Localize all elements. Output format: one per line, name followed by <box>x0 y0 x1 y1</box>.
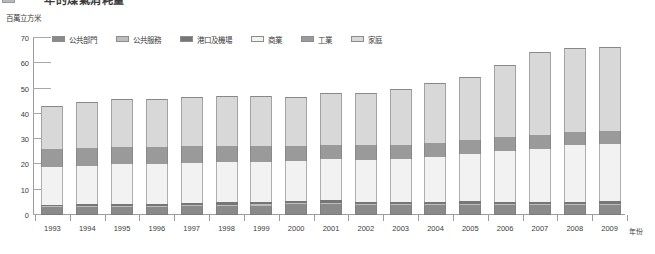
legend-item-3[interactable]: 港口及機場 <box>180 34 232 45</box>
legend-swatch-icon <box>52 36 65 42</box>
x-tick-label-2003: 2003 <box>384 224 418 233</box>
bar-segment <box>355 205 377 215</box>
bar-segment <box>564 205 586 215</box>
bar-segment <box>529 135 551 149</box>
bar-segment <box>459 154 481 201</box>
x-tick-label-1998: 1998 <box>210 224 244 233</box>
x-axis-tick-labels: 1993199419951996199719981999200020012002… <box>33 224 625 238</box>
chart-title-strip: 年的煤氣消耗量 <box>0 0 655 7</box>
bar-segment <box>146 206 168 207</box>
legend-swatch-icon <box>180 36 193 42</box>
bar-segment <box>76 102 98 148</box>
bar-segment <box>76 166 98 204</box>
x-tick-mark <box>348 215 349 221</box>
x-tick-mark <box>592 215 593 221</box>
bar-segment <box>111 207 133 215</box>
bar-segment <box>320 203 342 204</box>
bar-segment <box>41 106 63 149</box>
x-tick-label-1994: 1994 <box>70 224 104 233</box>
bar-segment <box>111 99 133 147</box>
bar-segment <box>181 205 203 206</box>
legend-label: 公共服務 <box>133 34 161 45</box>
bar-segment <box>146 204 168 206</box>
x-tick-mark <box>627 215 628 221</box>
bar-segment <box>216 146 238 162</box>
bar-segment <box>459 201 481 203</box>
legend-item-2[interactable]: 公共服務 <box>116 34 161 45</box>
legend-label: 港口及機場 <box>197 34 232 45</box>
x-tick-mark <box>314 215 315 221</box>
bar-segment <box>599 144 621 201</box>
bar-segment <box>146 207 168 215</box>
bar-segment <box>146 147 168 164</box>
legend-label: 商業 <box>268 34 282 45</box>
bar-segment <box>390 204 412 205</box>
bar-segment <box>355 202 377 204</box>
legend-swatch-icon <box>251 36 264 42</box>
bar-segment <box>390 202 412 204</box>
x-tick-mark <box>70 215 71 221</box>
bar-segment <box>599 47 621 130</box>
bar-segment <box>285 146 307 161</box>
x-tick-label-1999: 1999 <box>244 224 278 233</box>
bar-segment <box>355 204 377 205</box>
x-tick-mark <box>557 215 558 221</box>
bar-segment <box>424 143 446 157</box>
legend-item-6[interactable]: 家庭 <box>351 34 382 45</box>
x-tick-label-1993: 1993 <box>35 224 69 233</box>
bar-segment <box>390 145 412 159</box>
bar-segment <box>564 132 586 146</box>
x-tick-label-2004: 2004 <box>418 224 452 233</box>
x-tick-mark <box>418 215 419 221</box>
bar-segment <box>424 83 446 143</box>
bar-segment <box>529 149 551 202</box>
bar-segment <box>599 204 621 205</box>
bar-series-container <box>33 38 625 215</box>
x-tick-label-1996: 1996 <box>140 224 174 233</box>
bar-segment <box>285 161 307 201</box>
x-tick-mark <box>139 215 140 221</box>
x-tick-label-2009: 2009 <box>593 224 627 233</box>
x-tick-label-2002: 2002 <box>349 224 383 233</box>
bar-segment <box>111 206 133 207</box>
legend-label: 工業 <box>318 34 332 45</box>
x-tick-mark <box>453 215 454 221</box>
bar-segment <box>564 145 586 201</box>
legend-item-5[interactable]: 工業 <box>301 34 332 45</box>
legend-swatch-icon <box>301 36 314 42</box>
legend-item-1[interactable]: 公共部門 <box>52 34 97 45</box>
x-tick-mark <box>209 215 210 221</box>
plot-area <box>33 38 625 215</box>
bar-segment <box>76 148 98 166</box>
bar-segment <box>250 162 272 202</box>
bar-segment <box>216 96 238 146</box>
bar-segment <box>424 202 446 204</box>
bar-segment <box>320 93 342 145</box>
bar-segment <box>146 164 168 204</box>
bar-segment <box>216 206 238 215</box>
bar-segment <box>181 206 203 215</box>
x-tick-label-1995: 1995 <box>105 224 139 233</box>
bar-segment <box>390 159 412 202</box>
x-tick-label-2001: 2001 <box>314 224 348 233</box>
bar-segment <box>320 204 342 215</box>
x-tick-mark <box>35 215 36 221</box>
bar-segment <box>111 147 133 164</box>
x-tick-mark <box>383 215 384 221</box>
x-tick-label-2000: 2000 <box>279 224 313 233</box>
bar-segment <box>285 201 307 204</box>
x-tick-label-2006: 2006 <box>488 224 522 233</box>
chart-legend: 公共部門公共服務港口及機場商業工業家庭 <box>52 33 401 45</box>
bar-segment <box>390 89 412 144</box>
bar-segment <box>459 204 481 205</box>
x-tick-mark <box>244 215 245 221</box>
bar-segment <box>76 207 98 215</box>
bar-segment <box>41 167 63 205</box>
bar-segment <box>41 149 63 167</box>
bar-segment <box>181 163 203 203</box>
bar-segment <box>494 204 516 205</box>
bar-segment <box>41 205 63 207</box>
bar-segment <box>216 205 238 206</box>
bar-segment <box>459 140 481 154</box>
legend-item-4[interactable]: 商業 <box>251 34 282 45</box>
